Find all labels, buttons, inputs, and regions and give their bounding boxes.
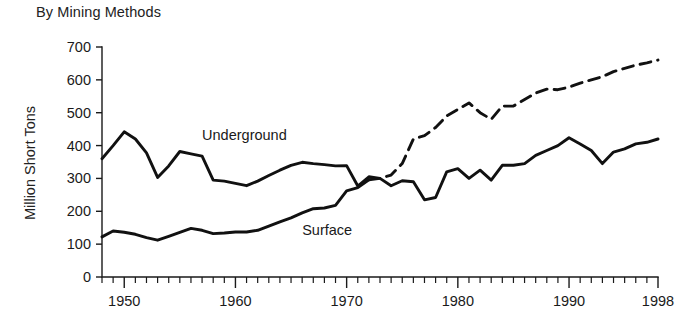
- y-axis-ticks: 0100200300400500600700: [67, 39, 102, 285]
- y-tick-label: 300: [67, 170, 91, 186]
- coal-production-chart: By Mining Methods Million Short Tons 010…: [0, 0, 676, 331]
- y-tick-label: 200: [67, 203, 91, 219]
- y-tick-label: 700: [67, 39, 91, 55]
- chart-title: By Mining Methods: [36, 4, 161, 20]
- x-tick-label: 1970: [331, 293, 363, 309]
- y-tick-label: 600: [67, 72, 91, 88]
- series-label-underground: Underground: [202, 127, 287, 143]
- x-tick-label: 1950: [108, 293, 140, 309]
- x-tick-label: 1998: [642, 293, 674, 309]
- x-tick-label: 1990: [553, 293, 585, 309]
- y-tick-label: 100: [67, 236, 91, 252]
- x-axis-ticks: 195019601970198019901998: [102, 277, 674, 309]
- y-tick-label: 0: [83, 269, 91, 285]
- series-line-surface-dashed: [369, 60, 658, 180]
- data-series: [102, 60, 658, 240]
- axis-lines: [102, 47, 658, 277]
- plot-area: 0100200300400500600700 19501960197019801…: [0, 0, 676, 331]
- x-tick-label: 1960: [219, 293, 251, 309]
- x-tick-label: 1980: [442, 293, 474, 309]
- y-axis-label: Million Short Tons: [22, 63, 38, 263]
- y-tick-label: 400: [67, 138, 91, 154]
- series-line-underground: [102, 132, 658, 200]
- series-label-surface: Surface: [302, 222, 352, 238]
- y-tick-label: 500: [67, 105, 91, 121]
